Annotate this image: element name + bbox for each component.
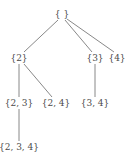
node-set-2-3-4: {2, 3, 4} (0, 143, 40, 152)
edges-layer (0, 0, 128, 158)
node-set-4: {4} (107, 54, 126, 63)
edge-2-to-24 (24, 64, 52, 97)
edge-root-to-2 (24, 20, 58, 52)
node-set-2-3: {2, 3} (4, 99, 35, 108)
edge-root-to-3 (65, 20, 92, 52)
set-tree-diagram: { } {2} {3} {4} {2, 3} {2, 4} {3, 4} {2,… (0, 0, 128, 158)
edge-root-to-4 (67, 19, 114, 52)
node-set-3-4: {3, 4} (80, 99, 111, 108)
node-set-3: {3} (85, 54, 104, 63)
node-set-2-4: {2, 4} (41, 99, 72, 108)
node-set-2: {2} (9, 54, 28, 63)
node-empty-set: { } (54, 10, 70, 19)
